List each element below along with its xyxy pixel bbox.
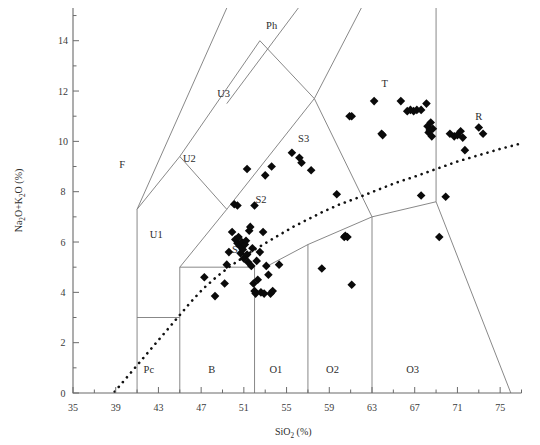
x-tick-label: 75 (495, 402, 505, 413)
field-label-b: B (208, 364, 215, 375)
data-point (252, 257, 261, 266)
data-point (435, 233, 444, 242)
field-label-o1: O1 (269, 364, 282, 375)
data-point (318, 264, 327, 273)
boundary-t-o3-join (372, 202, 436, 217)
data-point (262, 262, 271, 271)
data-point (264, 270, 273, 279)
data-point (256, 248, 265, 257)
x-tick-label: 63 (367, 402, 377, 413)
x-tick-label: 67 (410, 402, 420, 413)
axis-titles: SiO2 (%)Na2O+K2O (%) (13, 169, 312, 440)
field-label-s3: S3 (298, 133, 309, 144)
boundary-s2-s3-diag (227, 99, 315, 210)
field-label-ph: Ph (266, 20, 278, 31)
x-tick-label: 43 (153, 402, 163, 413)
boundary-o2-s3-step (265, 245, 308, 268)
data-point (479, 130, 488, 139)
data-point (220, 279, 229, 288)
data-point (347, 280, 356, 289)
data-point (248, 244, 257, 253)
data-point (441, 192, 450, 201)
data-point (417, 191, 426, 200)
y-tick-label: 12 (58, 86, 68, 97)
field-label-r: R (475, 111, 482, 122)
y-tick-label: 0 (61, 388, 66, 399)
boundary-s3-t-diag (314, 99, 372, 217)
data-point (397, 97, 406, 106)
field-label-s2: S2 (255, 194, 266, 205)
field-label-pc: Pc (144, 364, 155, 375)
axis-ticks (73, 16, 522, 393)
x-tick-label: 55 (282, 402, 292, 413)
boundary-u3-s3-diag (260, 41, 314, 99)
field-label-u3: U3 (217, 88, 230, 99)
boundary-u3-ph-diag (227, 8, 299, 104)
field-label-u1: U1 (150, 229, 163, 240)
axis-tick-labels: 353943475155596367717502468101214 (58, 35, 505, 413)
x-axis-title: SiO2 (%) (275, 426, 312, 440)
boundary-s1-s2-upper (180, 209, 227, 267)
x-tick-label: 39 (111, 402, 121, 413)
tas-diagram-figure: 353943475155596367717502468101214 FU1U2U… (0, 0, 540, 445)
data-point (422, 99, 431, 108)
x-tick-label: 47 (196, 402, 206, 413)
field-label-o3: O3 (406, 364, 419, 375)
data-point (474, 123, 483, 132)
y-axis-title: Na2O+K2O (%) (13, 169, 27, 233)
data-point (261, 171, 270, 180)
y-tick-label: 8 (61, 186, 66, 197)
axis-lines (73, 8, 522, 393)
x-tick-label: 35 (68, 402, 78, 413)
field-boundary-lines (137, 8, 511, 393)
data-point (267, 162, 276, 171)
tas-scatter-chart: 353943475155596367717502468101214 FU1U2U… (0, 0, 540, 445)
data-point (243, 165, 252, 174)
data-point (332, 190, 341, 199)
rock-field-labels: FU1U2U3PhPcBS1S2S3TRO1O2O3 (119, 20, 482, 374)
data-point (228, 228, 237, 237)
data-point (370, 97, 379, 106)
y-tick-label: 10 (58, 136, 68, 147)
x-tick-label: 71 (452, 402, 462, 413)
y-tick-label: 14 (58, 35, 68, 46)
y-tick-label: 4 (61, 287, 66, 298)
boundary-r-o3-diag (436, 202, 511, 393)
data-point (288, 148, 297, 157)
data-point (211, 292, 220, 301)
data-point (200, 273, 209, 282)
y-tick-label: 2 (61, 337, 66, 348)
data-point (461, 146, 470, 155)
alkaline-subalkaline-divider (115, 144, 520, 392)
axes (73, 8, 522, 393)
x-tick-label: 59 (324, 402, 334, 413)
data-point (259, 228, 268, 237)
data-point (307, 166, 316, 175)
y-tick-label: 6 (61, 237, 66, 248)
boundary-u1-apex (137, 156, 180, 209)
x-tick-label: 51 (239, 402, 249, 413)
field-label-t: T (382, 78, 389, 89)
field-label-u2: U2 (183, 153, 196, 164)
boundary-ph-t-diag (314, 8, 361, 99)
field-label-f: F (119, 159, 125, 170)
data-point-markers (200, 97, 487, 301)
field-label-o2: O2 (326, 364, 339, 375)
boundary-s3-o2-up (308, 217, 372, 245)
alkaline-subalkaline-divider (115, 144, 520, 392)
